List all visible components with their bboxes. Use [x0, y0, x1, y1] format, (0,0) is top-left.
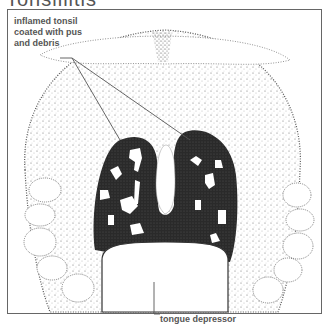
inflamed-tonsil-label: inflamed tonsil coated with pus and debr… [14, 16, 94, 49]
tongue-depressor-label: tongue depressor [160, 314, 236, 325]
mouth-illustration [0, 0, 327, 328]
tongue-depressor [102, 242, 228, 312]
